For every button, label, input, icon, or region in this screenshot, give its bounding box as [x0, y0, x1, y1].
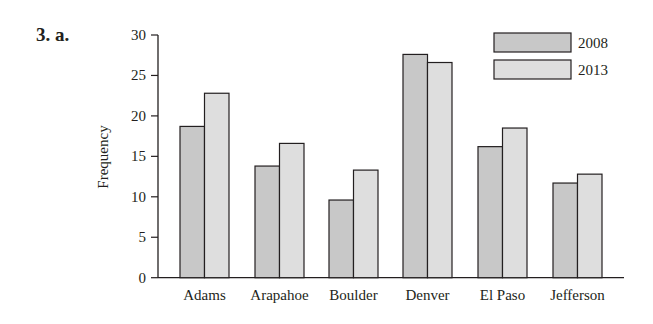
x-category-label: El Paso [480, 287, 525, 303]
x-category-label: Arapahoe [250, 287, 309, 303]
bar-2008-boulder [329, 200, 354, 278]
y-axis-label: Frequency [95, 125, 111, 189]
legend-label-2013: 2013 [578, 62, 608, 78]
y-tick-label: 5 [139, 229, 147, 245]
bar-2013-boulder [354, 170, 379, 278]
legend-label-2008: 2008 [578, 35, 608, 51]
bar-2008-el-paso [478, 147, 503, 278]
x-category-label: Boulder [329, 287, 377, 303]
x-category-label: Adams [183, 287, 226, 303]
bar-2013-arapahoe [280, 143, 305, 277]
bar-2013-jefferson [578, 174, 603, 278]
y-tick-label: 20 [131, 108, 146, 124]
bar-2013-adams [205, 93, 230, 277]
bar-2013-el-paso [503, 128, 528, 278]
x-category-label: Jefferson [550, 287, 605, 303]
bar-2008-adams [180, 126, 205, 277]
bar-2008-arapahoe [255, 166, 280, 278]
legend-swatch-2008 [494, 33, 571, 52]
bar-chart: 051015202530FrequencyAdamsArapahoeBoulde… [0, 0, 653, 324]
y-tick-label: 10 [131, 189, 146, 205]
legend-swatch-2013 [494, 60, 571, 79]
bar-2008-jefferson [553, 183, 578, 278]
bar-2008-denver [403, 54, 428, 277]
x-category-label: Denver [405, 287, 449, 303]
bar-2013-denver [428, 63, 453, 278]
y-tick-label: 15 [131, 148, 146, 164]
y-tick-label: 25 [131, 67, 146, 83]
y-tick-label: 0 [139, 270, 147, 286]
y-tick-label: 30 [131, 27, 146, 43]
